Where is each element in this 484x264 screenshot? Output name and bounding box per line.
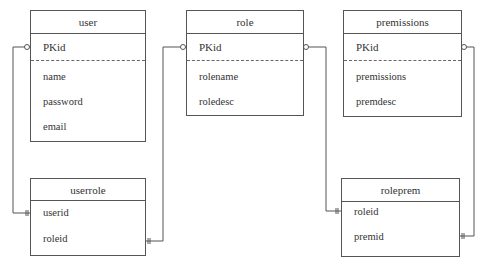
primary-key: PKid [344, 33, 461, 61]
entity-title: premissions [344, 11, 461, 34]
entity-premissions[interactable]: premissions PKid premissions premdesc [343, 10, 462, 117]
field-name: name [43, 71, 66, 82]
link-role-userrole [145, 43, 189, 244]
entity-user[interactable]: user PKid name password email [30, 10, 146, 142]
primary-key: PKid [187, 33, 303, 61]
entity-roleprem[interactable]: roleprem roleid premid [341, 178, 460, 257]
primary-key: PKid [31, 33, 145, 61]
link-role-roleprem [300, 43, 341, 214]
field-roledesc: roledesc [199, 96, 234, 107]
field-userid: userid [43, 207, 69, 218]
entity-title: roleprem [342, 179, 459, 202]
field-email: email [43, 121, 66, 132]
field-password: password [43, 96, 83, 107]
field-roleid: roleid [354, 206, 379, 217]
entity-role[interactable]: role PKid rolename roledesc [186, 10, 304, 116]
entity-title: role [187, 11, 303, 34]
field-premissions: premissions [356, 71, 406, 82]
field-roleid: roleid [43, 233, 68, 244]
entity-title: user [31, 11, 145, 34]
entity-title: userrole [31, 179, 145, 201]
entity-userrole[interactable]: userrole userid roleid [30, 178, 146, 256]
field-premid: premid [354, 231, 384, 242]
field-premdesc: premdesc [356, 96, 396, 107]
field-rolename: rolename [199, 71, 238, 82]
